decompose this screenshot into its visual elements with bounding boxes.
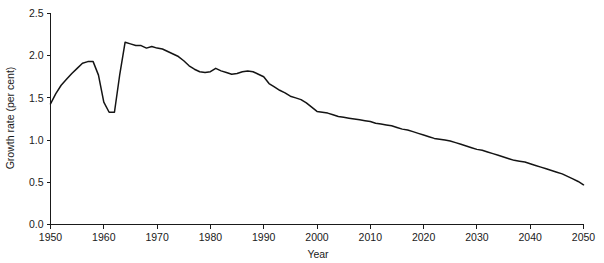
x-tick-label: 2020: [412, 231, 436, 243]
y-tick-label: 2.0: [29, 49, 44, 61]
axis-lines: [51, 14, 584, 225]
x-tick-label: 2010: [359, 231, 383, 243]
data-series-line: [51, 42, 584, 185]
x-tick-label: 2000: [305, 231, 329, 243]
x-axis-tick-labels: 1950196019701980199020002010202020302040…: [39, 231, 596, 243]
x-axis-tick-marks: [51, 225, 584, 229]
x-tick-label: 2050: [572, 231, 596, 243]
y-tick-label: 0.5: [29, 176, 44, 188]
x-tick-label: 2030: [465, 231, 489, 243]
chart-canvas: 0.00.51.01.52.02.5 195019601970198019902…: [0, 0, 604, 263]
y-tick-label: 1.0: [29, 134, 44, 146]
x-tick-label: 1970: [145, 231, 169, 243]
x-tick-label: 1990: [252, 231, 276, 243]
x-tick-label: 1950: [39, 231, 63, 243]
y-axis-tick-marks: [47, 14, 51, 225]
y-axis-title: Growth rate (per cent): [4, 67, 16, 170]
x-tick-label: 1960: [92, 231, 116, 243]
y-tick-label: 2.5: [29, 7, 44, 19]
y-tick-label: 1.5: [29, 92, 44, 104]
x-axis-title: Year: [307, 248, 329, 260]
x-tick-label: 1980: [199, 231, 223, 243]
y-tick-label: 0.0: [29, 218, 44, 230]
growth-rate-line-chart: 0.00.51.01.52.02.5 195019601970198019902…: [0, 0, 604, 263]
x-tick-label: 2040: [519, 231, 543, 243]
y-axis-tick-labels: 0.00.51.01.52.02.5: [29, 7, 44, 230]
